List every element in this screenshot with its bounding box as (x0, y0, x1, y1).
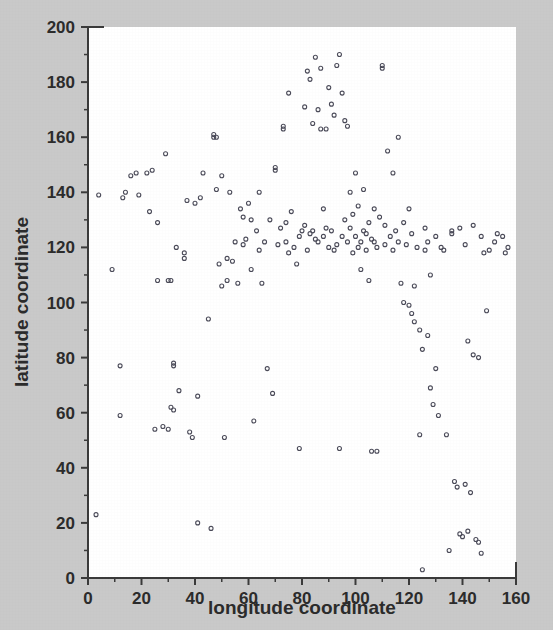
y-tick-label: 160 (47, 128, 75, 147)
x-tick-label: 140 (448, 589, 476, 608)
y-tick-label: 140 (47, 183, 75, 202)
scatter-plot-canvas: 020406080100120140160 020406080100120140… (0, 0, 553, 630)
y-tick-label: 80 (56, 349, 75, 368)
y-tick-label: 180 (47, 73, 75, 92)
y-tick-label: 20 (56, 514, 75, 533)
y-axis-title: latitude coordinate (11, 217, 32, 387)
y-tick-label: 200 (47, 18, 75, 37)
x-tick-label: 160 (502, 589, 530, 608)
x-tick-label: 120 (395, 589, 423, 608)
y-tick-label: 120 (47, 238, 75, 257)
y-tick-label: 100 (47, 294, 75, 313)
x-axis-title: longitude coordinate (208, 597, 396, 618)
x-tick-label: 20 (132, 589, 151, 608)
x-tick-label: 0 (83, 589, 92, 608)
scatter-plot-figure: 020406080100120140160 020406080100120140… (0, 0, 553, 630)
plot-area-background (88, 27, 516, 578)
x-tick-label: 40 (186, 589, 205, 608)
y-tick-label: 0 (66, 569, 75, 588)
y-tick-label: 40 (56, 459, 75, 478)
y-tick-label: 60 (56, 404, 75, 423)
